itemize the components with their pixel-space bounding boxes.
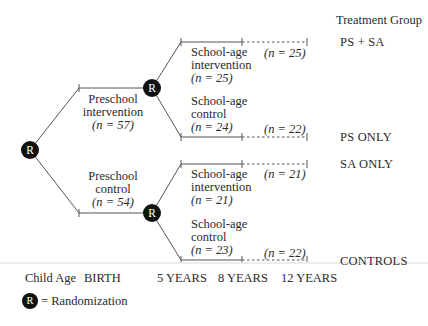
school-age-control-upper-label: School-age control (n = 24) (191, 95, 247, 134)
branch-n: (n = 24) (191, 121, 247, 134)
school-age-control-lower-label: School-age control (n = 23) (191, 218, 247, 257)
axis-tick-5-years: 5 YEARS (157, 272, 207, 285)
group-sa-only: SA ONLY (340, 158, 393, 171)
branch-n: (n = 21) (191, 194, 251, 207)
school-age-intervention-upper-label: School-age intervention (n = 25) (191, 46, 251, 85)
followup-n-controls: (n = 22) (264, 247, 306, 260)
axis-tick-birth: BIRTH (84, 272, 121, 285)
randomization-node-root: R (21, 141, 39, 159)
axis-label: Child Age (25, 272, 76, 285)
treatment-group-title: Treatment Group (336, 14, 422, 27)
branch-n: (n = 57) (78, 119, 148, 132)
followup-n-ps-only: (n = 22) (264, 123, 306, 136)
branch-n: (n = 23) (191, 244, 247, 257)
followup-n-sa-only: (n = 21) (264, 168, 306, 181)
axis-tick-8-years: 8 YEARS (218, 272, 268, 285)
followup-n-ps-sa: (n = 25) (264, 47, 306, 60)
legend-text: = Randomization (41, 295, 128, 308)
group-ps-only: PS ONLY (340, 131, 392, 144)
axis-tick-12-years: 12 YEARS (281, 272, 337, 285)
legend-randomization-icon: R (22, 293, 38, 309)
school-age-intervention-lower-label: School-age intervention (n = 21) (191, 168, 251, 207)
group-ps-sa: PS + SA (340, 36, 385, 49)
branch-n: (n = 54) (78, 196, 148, 209)
branch-n: (n = 25) (191, 72, 251, 85)
preschool-intervention-label: Preschool intervention (n = 57) (78, 93, 148, 132)
preschool-control-label: Preschool control (n = 54) (78, 170, 148, 209)
group-controls: CONTROLS (340, 255, 408, 268)
